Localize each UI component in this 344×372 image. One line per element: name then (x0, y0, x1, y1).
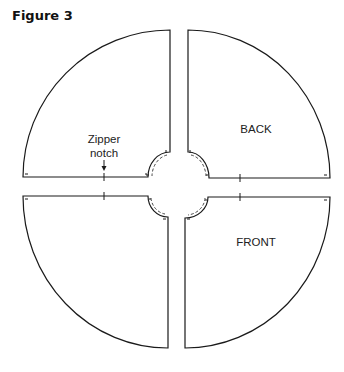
back-label: BACK (240, 123, 272, 135)
zipper-label-line1: Zipper (88, 133, 121, 145)
front-label: FRONT (236, 236, 276, 248)
seam-line-bottom-right (188, 198, 205, 215)
seam-line-top-left (152, 155, 167, 176)
seam-line-top-right (191, 155, 206, 176)
pattern-piece-back (188, 30, 330, 178)
pattern-diagram: Zipper notch BACK FRONT (0, 0, 344, 372)
zipper-arrow-icon (102, 160, 107, 171)
pattern-piece-front (185, 197, 330, 348)
seam-line-bottom-left (151, 198, 165, 214)
pattern-piece-bottom-left (23, 196, 168, 348)
zipper-label-line2: notch (90, 147, 118, 159)
